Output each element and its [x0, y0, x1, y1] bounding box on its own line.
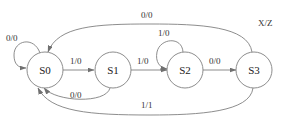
- edge-label-s1-s2: 1/0: [137, 56, 149, 66]
- legend-label: X/Z: [258, 18, 273, 28]
- state-s0: S0: [27, 52, 63, 88]
- edge-label-s0-s0: 0/0: [6, 33, 18, 43]
- state-label-s1: S1: [107, 64, 119, 76]
- state-s1: S1: [95, 52, 131, 88]
- state-label-s2: S2: [179, 64, 191, 76]
- edge-label-s3-s0-top: 0/0: [141, 10, 153, 20]
- edge-label-s2-s3: 0/0: [209, 56, 221, 66]
- state-label-s3: S3: [248, 64, 260, 76]
- state-diagram: X/Z 0/0 1/0 1/0 0/0 1/0 0/0 0/0 1/1 S0 S…: [0, 0, 284, 120]
- edge-label-s0-s1: 1/0: [70, 56, 82, 66]
- edge-s3-s0-top: [48, 24, 252, 52]
- edge-label-s3-s0-bottom: 1/1: [141, 100, 153, 110]
- edge-label-s2-s2: 1/0: [158, 28, 170, 38]
- state-label-s0: S0: [39, 64, 51, 76]
- state-s3: S3: [236, 52, 272, 88]
- state-s2: S2: [167, 52, 203, 88]
- edge-label-s1-s0: 0/0: [70, 90, 82, 100]
